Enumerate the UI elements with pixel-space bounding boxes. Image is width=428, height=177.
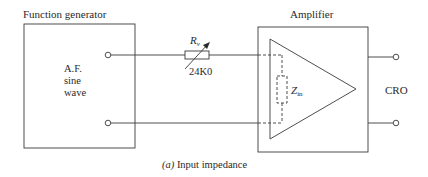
figure-caption: (a) Input impedance <box>162 159 247 171</box>
function-generator-box <box>24 24 135 148</box>
resistor-symbol: Rv <box>189 34 201 48</box>
amplifier: Amplifier Zin <box>258 8 368 152</box>
output-terminal-top <box>393 54 399 60</box>
amplifier-title: Amplifier <box>290 8 334 20</box>
amplifier-box <box>258 27 368 152</box>
amplifier-triangle-icon <box>270 39 356 139</box>
cro-label: CRO <box>385 84 408 96</box>
output-terminal-bottom <box>393 120 399 126</box>
function-generator: Function generator A.F. sine wave <box>23 8 135 148</box>
variable-resistor: Rv 24K0 <box>185 34 212 77</box>
wires <box>111 55 258 123</box>
input-impedance-label: Zin <box>291 84 303 98</box>
cro-output: CRO <box>368 54 408 126</box>
input-impedance-icon <box>277 76 287 103</box>
resistor-value: 24K0 <box>189 66 212 77</box>
function-generator-line-3: wave <box>64 87 86 98</box>
function-generator-line-2: sine <box>64 75 81 86</box>
function-generator-line-1: A.F. <box>64 63 82 74</box>
variable-resistor-icon <box>185 51 209 59</box>
generator-terminal-top <box>105 52 111 58</box>
generator-terminal-bottom <box>105 120 111 126</box>
input-impedance-diagram: Function generator A.F. sine wave Rv 24K… <box>0 0 428 177</box>
function-generator-title: Function generator <box>23 8 107 20</box>
